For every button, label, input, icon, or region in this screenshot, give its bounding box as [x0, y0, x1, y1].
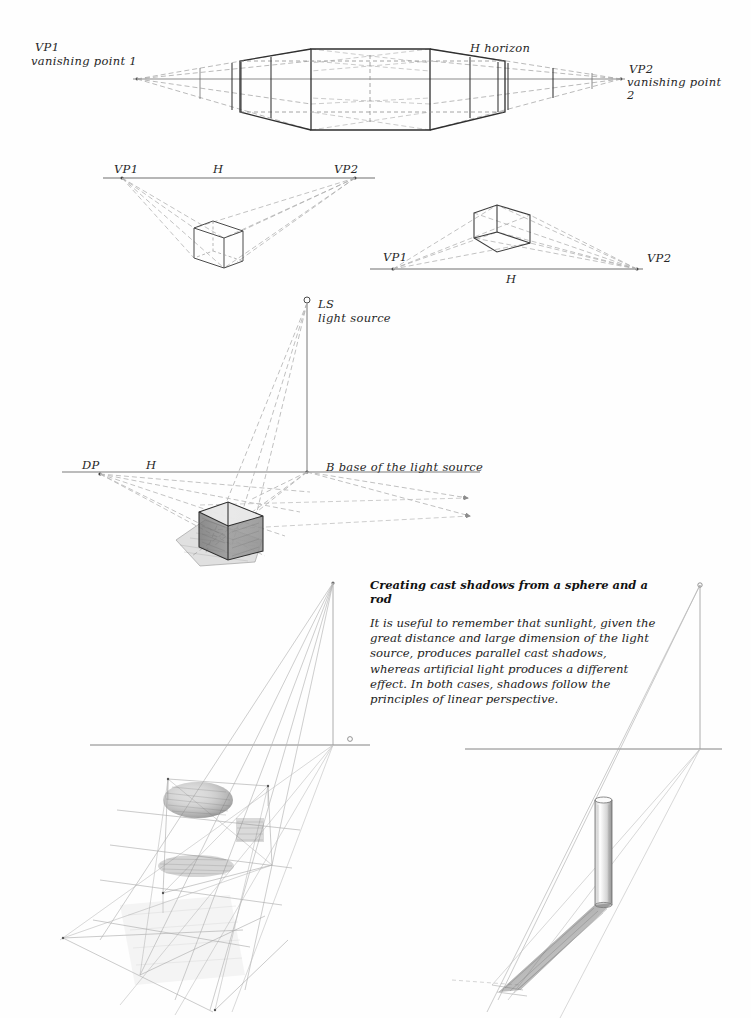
figure-cast-shadow-sphere	[60, 581, 370, 1015]
label-fig2-vp1: VP1	[114, 163, 138, 176]
label-light-source-abbr: LS	[318, 298, 334, 311]
label-fig2-horizon: H	[213, 163, 223, 176]
label-fig3-vp1: VP1	[383, 251, 407, 264]
label-fig4-horizon: H	[146, 459, 156, 472]
figure-two-point-perspective	[133, 49, 625, 130]
figure-cube-below-horizon	[103, 177, 375, 269]
caption-title: Creating cast shadows from a sphere and …	[370, 578, 660, 606]
figure-box-above-horizon	[370, 205, 643, 271]
perspective-drawings	[0, 0, 751, 1018]
caption-body: It is useful to remember that sunlight, …	[370, 616, 660, 707]
label-light-source-full: light source	[318, 312, 391, 325]
label-horizon: H horizon	[470, 42, 530, 55]
label-dp: DP	[82, 459, 100, 472]
label-vp1: VP1	[35, 41, 59, 54]
label-vp2-full-line1: vanishing point	[627, 76, 721, 89]
label-vp1-full: vanishing point 1	[31, 55, 137, 68]
caption-block: Creating cast shadows from a sphere and …	[370, 578, 660, 707]
label-fig3-vp2: VP2	[647, 252, 671, 265]
figure-cast-shadow-cube	[62, 297, 480, 566]
label-vp2-full-line2: 2	[627, 89, 635, 102]
label-base-of-light: B base of the light source	[326, 461, 483, 474]
label-fig2-vp2: VP2	[334, 163, 358, 176]
label-fig3-horizon: H	[506, 273, 516, 286]
page-canvas: VP1 vanishing point 1 H horizon VP2 vani…	[0, 0, 751, 1018]
